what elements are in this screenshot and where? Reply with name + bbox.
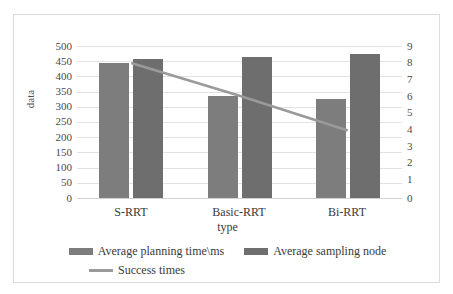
left-tick-500: 500 [56, 41, 73, 52]
x-axis-title: type [14, 220, 441, 235]
chart-frame: data 500 450 400 350 300 250 200 150 100… [13, 14, 440, 283]
success-times-line-series [77, 46, 402, 198]
legend-item-planning-time[interactable]: Average planning time\ms [69, 244, 224, 259]
right-tick-0: 0 [407, 193, 413, 204]
left-tick-450: 450 [56, 56, 73, 67]
gridline [77, 198, 402, 199]
category-label-basic-rrt: Basic-RRT [185, 205, 293, 220]
right-tick-2: 2 [407, 157, 413, 168]
legend-swatch-bar-icon [244, 248, 268, 255]
left-tick-150: 150 [56, 147, 73, 158]
left-tick-400: 400 [56, 71, 73, 82]
legend-label-success-times: Success times [118, 263, 185, 278]
chart-legend: Average planning time\ms Average samplin… [14, 240, 441, 278]
plot-area [77, 46, 402, 198]
right-tick-3: 3 [407, 141, 413, 152]
right-tick-7: 7 [407, 74, 413, 85]
legend-swatch-line-icon [89, 269, 113, 272]
left-tick-100: 100 [56, 162, 73, 173]
left-tick-250: 250 [56, 116, 73, 127]
left-tick-350: 350 [56, 86, 73, 97]
legend-swatch-bar-icon [69, 248, 93, 255]
legend-row-2: Success times [14, 263, 441, 278]
right-tick-5: 5 [407, 107, 413, 118]
left-tick-200: 200 [56, 132, 73, 143]
legend-item-sampling-node[interactable]: Average sampling node [244, 244, 386, 259]
right-axis-ticks: 9 8 7 6 5 4 3 2 1 0 [407, 46, 431, 198]
left-tick-0: 0 [67, 193, 73, 204]
legend-row-1: Average planning time\ms Average samplin… [14, 244, 441, 259]
category-label-bi-rrt: Bi-RRT [293, 205, 401, 220]
right-tick-8: 8 [407, 57, 413, 68]
right-tick-9: 9 [407, 41, 413, 52]
legend-label-sampling-node: Average sampling node [273, 244, 386, 259]
right-tick-6: 6 [407, 91, 413, 102]
left-tick-300: 300 [56, 101, 73, 112]
left-tick-50: 50 [61, 177, 72, 188]
left-axis-ticks: 500 450 400 350 300 250 200 150 100 50 0 [24, 46, 72, 198]
legend-label-planning-time: Average planning time\ms [98, 244, 224, 259]
success-times-line [131, 63, 348, 130]
legend-item-success-times[interactable]: Success times [89, 263, 185, 278]
right-tick-1: 1 [407, 174, 413, 185]
category-label-s-rrt: S-RRT [77, 205, 185, 220]
right-tick-4: 4 [407, 124, 413, 135]
